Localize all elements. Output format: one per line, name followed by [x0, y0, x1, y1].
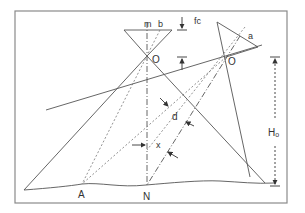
label-A: A	[78, 189, 85, 200]
dotted-ray-tilted-o-to-a	[82, 57, 226, 184]
x-arrow-right	[168, 152, 178, 158]
tilted-axis-o-to-n	[147, 36, 240, 185]
label-ho: Ho	[268, 127, 279, 138]
label-b: b	[158, 19, 163, 29]
photogrammetry-diagram: m b fc O O a d x Ho A N	[0, 0, 305, 213]
dotted-ray-b-to-a	[82, 30, 160, 184]
label-d: d	[172, 111, 178, 122]
label-o-vertical: O	[152, 54, 160, 65]
label-a: a	[248, 31, 253, 41]
label-ho-main: H	[268, 127, 275, 138]
label-m: m	[144, 19, 152, 29]
tilted-ray-top	[217, 22, 250, 177]
d-arrow-left	[160, 98, 168, 106]
label-fc: fc	[194, 16, 202, 26]
label-N: N	[143, 191, 150, 202]
label-x: x	[156, 140, 161, 150]
vertical-ray-left	[124, 30, 147, 56]
d-arrow-right	[186, 122, 194, 126]
label-ho-sub: o	[275, 131, 279, 138]
ground-line	[24, 181, 275, 190]
dotted-ray-a	[147, 27, 245, 150]
vertical-ray-right	[147, 30, 172, 56]
ray-o-to-ground-left	[24, 56, 147, 190]
label-o-tilted: O	[228, 56, 236, 67]
